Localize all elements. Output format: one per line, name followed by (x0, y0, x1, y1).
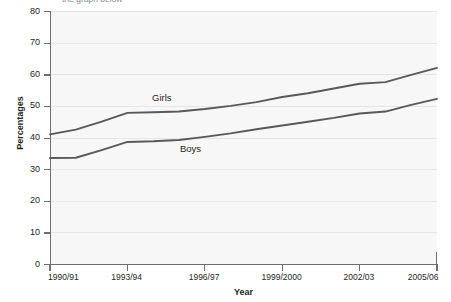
series-line-boys (50, 99, 437, 158)
series-label-boys: Boys (180, 143, 201, 154)
series-line-girls (50, 68, 437, 134)
series-layer (0, 0, 451, 302)
series-label-girls: Girls (152, 92, 172, 103)
line-chart: the graph below 01020304050607080 1990/9… (0, 0, 451, 302)
